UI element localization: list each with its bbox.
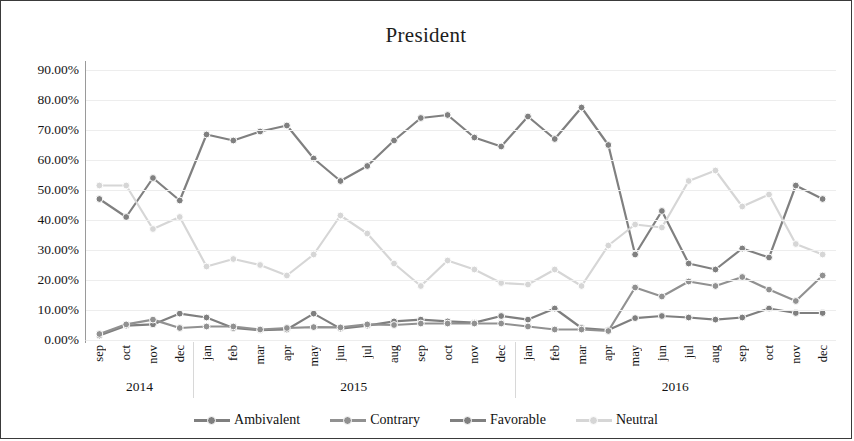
data-point [525,281,532,288]
x-axis-tick: dec [494,345,509,362]
x-axis-tick: mar [575,345,590,364]
data-point [605,142,612,149]
x-axis-year-label: 2015 [193,379,514,395]
data-point [310,310,317,317]
data-point [150,316,157,323]
data-point [498,320,505,327]
y-axis-tick: 80.00% [37,92,79,108]
legend-item-neutral[interactable]: Neutral [576,412,658,428]
legend-marker-icon [194,414,230,426]
data-point [632,221,639,228]
legend-marker-icon [330,414,366,426]
plot-area [86,70,836,340]
x-axis-tick: may [628,345,643,367]
y-axis-tick: 10.00% [37,302,79,318]
data-point [658,293,665,300]
data-point [658,313,665,320]
data-point [444,112,451,119]
x-axis-tick: feb [226,345,241,361]
gridline [86,70,836,71]
data-point [283,122,290,129]
data-point [766,286,773,293]
data-point [605,328,612,335]
data-point [203,323,210,330]
data-point [230,323,237,330]
data-point [310,324,317,331]
x-axis-tick: jan [200,345,215,360]
data-point [471,320,478,327]
x-axis-tick: oct [762,345,777,360]
y-axis-tick: 0.00% [44,332,79,348]
chart-container: President 90.00%80.00%70.00%60.00%50.00%… [0,0,852,439]
x-axis-tick: nov [789,345,804,364]
data-point [417,115,424,122]
data-point [391,260,398,267]
data-point [310,251,317,258]
data-point [391,322,398,329]
data-point [417,283,424,290]
data-point [739,203,746,210]
data-point [337,324,344,331]
data-point [578,326,585,333]
legend-item-ambivalent[interactable]: Ambivalent [194,412,300,428]
y-axis-tick: 60.00% [37,152,79,168]
data-point [792,182,799,189]
data-point [658,208,665,215]
series-lines [86,70,836,340]
legend-label: Contrary [370,412,420,428]
series-contrary [96,272,826,337]
data-point [283,325,290,332]
legend-item-contrary[interactable]: Contrary [330,412,420,428]
y-axis-tick: 20.00% [37,272,79,288]
data-point [417,320,424,327]
data-point [364,230,371,237]
x-axis-tick: dec [173,345,188,362]
x-axis-tick: feb [548,345,563,361]
data-point [364,321,371,328]
x-axis-tick: jul [682,345,697,358]
data-point [792,241,799,248]
data-point [632,284,639,291]
data-point [176,325,183,332]
data-point [230,256,237,263]
data-point [176,197,183,204]
x-axis-tick: oct [441,345,456,360]
x-axis-tick: jul [360,345,375,358]
legend-item-favorable[interactable]: Favorable [450,412,546,428]
y-axis-tick: 30.00% [37,242,79,258]
data-point [123,182,130,189]
data-point [551,136,558,143]
data-point [96,182,103,189]
data-point [712,316,719,323]
data-point [230,137,237,144]
data-point [203,314,210,321]
chart-title: President [1,23,851,48]
x-axis-tick: sep [735,345,750,362]
data-point [578,104,585,111]
data-point [203,263,210,270]
data-point [632,315,639,322]
data-point [444,257,451,264]
data-point [605,242,612,249]
x-axis-tick: nov [467,345,482,364]
y-axis-tick: 50.00% [37,182,79,198]
x-axis-tick: jun [655,345,670,361]
y-axis-tick-labels: 90.00%80.00%70.00%60.00%50.00%40.00%30.0… [1,1,79,439]
data-point [658,224,665,231]
data-point [712,266,719,273]
data-point [96,196,103,203]
gridline [86,100,836,101]
data-point [444,320,451,327]
data-point [498,143,505,150]
legend-label: Ambivalent [234,412,300,428]
x-axis-year-label: 2016 [515,379,836,395]
y-axis-tick: 70.00% [37,122,79,138]
gridline [86,250,836,251]
x-axis-tick: mar [253,345,268,364]
data-point [685,314,692,321]
x-axis-tick: jan [521,345,536,360]
data-point [498,313,505,320]
gridline [86,340,836,341]
data-point [685,260,692,267]
x-axis-tick: may [307,345,322,367]
